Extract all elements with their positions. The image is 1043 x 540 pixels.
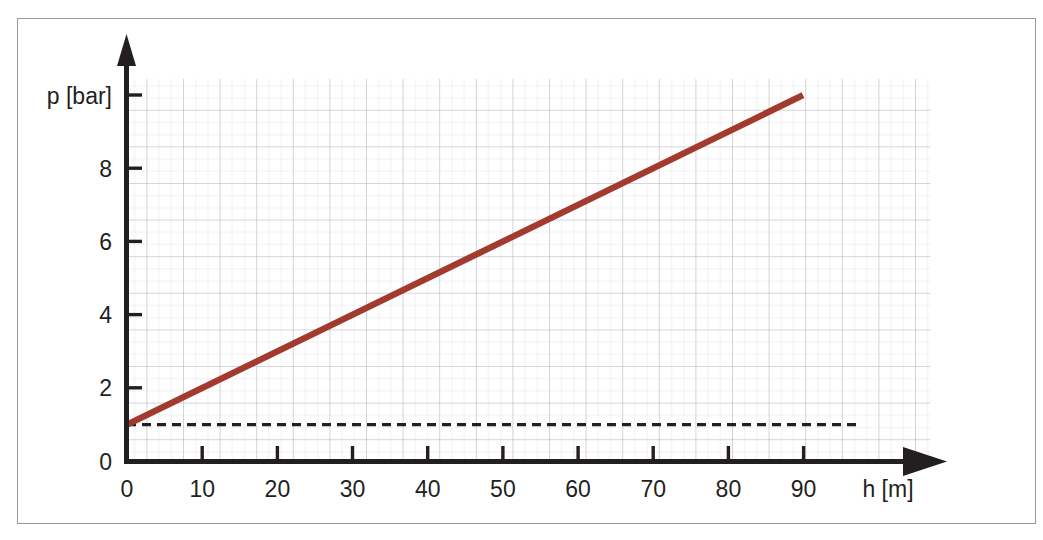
chart-figure: 0 2 4 6 8 p [bar] 0 10 20 30 40 50 60 70…	[0, 0, 1043, 540]
x-tick-label-20: 20	[265, 476, 291, 502]
y-tick-label-4: 4	[99, 302, 112, 328]
y-tick-label-8: 8	[99, 156, 112, 182]
x-tick-label-80: 80	[716, 476, 742, 502]
y-tick-label-0: 0	[99, 449, 112, 475]
x-tick-label-10: 10	[189, 476, 215, 502]
x-tick-label-0: 0	[121, 476, 134, 502]
x-tick-label-30: 30	[340, 476, 366, 502]
y-tick-label-2: 2	[99, 375, 112, 401]
y-axis-title: p [bar]	[47, 83, 112, 109]
x-tick-label-90: 90	[791, 476, 817, 502]
x-axis-title: h [m]	[862, 476, 913, 502]
y-tick-label-6: 6	[99, 229, 112, 255]
x-tick-label-50: 50	[490, 476, 516, 502]
x-tick-label-60: 60	[565, 476, 591, 502]
plot-grid	[127, 79, 931, 461]
x-tick-labels: 0 10 20 30 40 50 60 70 80 90	[121, 476, 817, 502]
x-tick-label-40: 40	[415, 476, 441, 502]
x-tick-label-70: 70	[640, 476, 666, 502]
pressure-depth-chart: 0 2 4 6 8 p [bar] 0 10 20 30 40 50 60 70…	[0, 0, 1043, 540]
y-tick-labels: 0 2 4 6 8	[99, 156, 112, 475]
